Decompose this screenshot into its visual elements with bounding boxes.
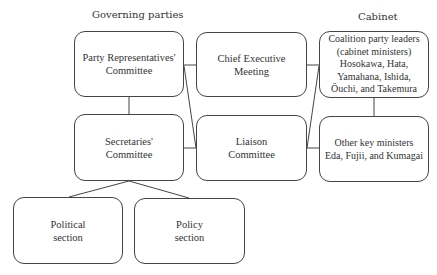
box-label-line: section [51, 231, 86, 244]
box-label-line: Coalition party leaders [328, 33, 419, 46]
box-label-line: Eda, Fujii, and Kumagai [325, 149, 423, 162]
party-representatives-committee-box: Party Representatives' Committee [74, 31, 184, 97]
box-label-line: Political [51, 218, 86, 231]
box-label-line: Committee [228, 148, 275, 161]
box-label-line: Party Representatives' [82, 51, 175, 64]
coalition-party-leaders-box: Coalition party leaders (cabinet ministe… [319, 31, 429, 98]
box-label-line: Chief Executive [218, 52, 286, 65]
political-section-box: Political section [13, 197, 123, 264]
box-label-line: (cabinet ministers) [328, 46, 419, 59]
box-label-line: Committee [105, 148, 153, 161]
other-key-ministers-box: Other key ministers Eda, Fujii, and Kuma… [319, 116, 429, 182]
secretaries-committee-box: Secretaries' Committee [74, 114, 184, 181]
box-label-line: Committee [82, 64, 175, 77]
edge-secretaries-political [69, 181, 129, 197]
box-label-line: Other key ministers [325, 136, 423, 149]
box-label-line: Secretaries' [105, 135, 153, 148]
box-label-line: Meeting [218, 65, 286, 78]
policy-section-box: Policy section [134, 198, 245, 264]
edge-liaison-coalition [307, 66, 319, 148]
box-label-line: Liaison [228, 135, 275, 148]
chief-executive-meeting-box: Chief Executive Meeting [196, 32, 307, 97]
box-label-line: section [175, 231, 205, 244]
edge-partyrep-liaison [184, 66, 196, 148]
box-label-line: Hosokawa, Hata, [328, 58, 419, 71]
cabinet-heading: Cabinet [358, 11, 398, 22]
governing-parties-heading: Governing parties [92, 9, 183, 20]
box-label-line: Policy [175, 218, 205, 231]
edge-secretaries-policy [129, 181, 189, 198]
box-label-line: Yamahana, Ishida, [328, 71, 419, 84]
box-label-line: Ōuchi, and Takemura [328, 83, 419, 96]
liaison-committee-box: Liaison Committee [196, 115, 307, 181]
